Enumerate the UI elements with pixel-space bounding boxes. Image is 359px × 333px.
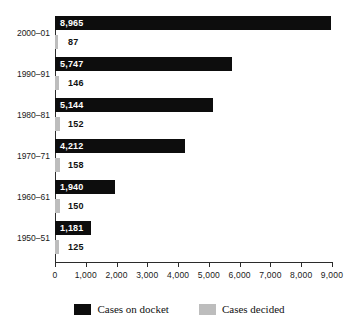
bar-cases-decided [55, 35, 58, 49]
x-tick-label: 2,000 [105, 270, 127, 280]
legend-label-decided: Cases decided [222, 303, 285, 315]
bar-value-label: 5,144 [60, 100, 84, 110]
x-tick-label: 1,000 [75, 270, 97, 280]
x-tick-label: 6,000 [229, 270, 251, 280]
legend-swatch-decided [199, 304, 216, 315]
bar-value-label: 125 [68, 240, 84, 254]
category-label: 1960–61 [0, 192, 50, 202]
bar-chart: 01,0002,0003,0004,0005,0006,0007,0008,00… [0, 0, 359, 333]
bar-cases-on-docket: 8,965 [55, 16, 331, 30]
x-axis-line [55, 262, 332, 263]
legend-item-decided: Cases decided [199, 303, 285, 315]
bar-value-label: 1,940 [60, 182, 84, 192]
bar-value-label: 146 [68, 76, 84, 90]
x-tick [240, 262, 241, 267]
category-label: 1950–51 [0, 233, 50, 243]
x-tick [117, 262, 118, 267]
bar-cases-decided [55, 158, 60, 172]
x-tick [301, 262, 302, 267]
bar-value-label: 1,181 [60, 223, 84, 233]
bar-cases-on-docket: 5,747 [55, 57, 232, 71]
bar-value-label: 8,965 [60, 18, 84, 28]
x-tick [270, 262, 271, 267]
bar-value-label: 150 [68, 199, 84, 213]
bar-cases-decided [55, 240, 59, 254]
x-tick-label: 8,000 [290, 270, 312, 280]
x-tick [55, 262, 56, 267]
x-tick-label: 5,000 [198, 270, 220, 280]
x-tick-label: 0 [53, 270, 58, 280]
x-tick [147, 262, 148, 267]
bar-cases-on-docket: 5,144 [55, 98, 213, 112]
chart-legend: Cases on docket Cases decided [0, 303, 359, 315]
x-tick-label: 7,000 [259, 270, 281, 280]
category-label: 1990–91 [0, 69, 50, 79]
legend-item-docket: Cases on docket [74, 303, 168, 315]
bar-cases-on-docket: 1,940 [55, 180, 115, 194]
bar-cases-decided [55, 76, 59, 90]
legend-label-docket: Cases on docket [97, 303, 168, 315]
x-tick [209, 262, 210, 267]
bar-cases-decided [55, 199, 60, 213]
x-tick [178, 262, 179, 267]
bar-value-label: 4,212 [60, 141, 84, 151]
bar-cases-on-docket: 4,212 [55, 139, 185, 153]
bar-value-label: 158 [68, 158, 84, 172]
category-label: 2000–01 [0, 28, 50, 38]
bar-value-label: 152 [68, 117, 84, 131]
bar-cases-decided [55, 117, 60, 131]
x-tick [332, 262, 333, 267]
category-label: 1980–81 [0, 110, 50, 120]
x-tick-label: 9,000 [321, 270, 343, 280]
x-tick-label: 3,000 [136, 270, 158, 280]
legend-swatch-docket [74, 304, 91, 315]
x-tick-label: 4,000 [167, 270, 189, 280]
bar-cases-on-docket: 1,181 [55, 221, 91, 235]
bar-value-label: 5,747 [60, 59, 84, 69]
bar-value-label: 87 [68, 35, 78, 49]
x-tick [86, 262, 87, 267]
category-label: 1970–71 [0, 151, 50, 161]
